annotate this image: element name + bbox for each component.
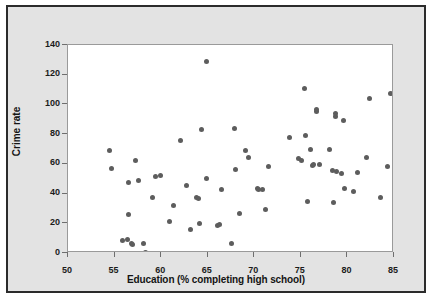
scatter-point — [339, 171, 344, 176]
scatter-point — [232, 126, 237, 131]
scatter-point — [133, 158, 138, 163]
x-tick-mark — [346, 252, 347, 257]
scatter-point — [260, 187, 265, 192]
scatter-point — [141, 241, 146, 246]
scatter-point — [130, 242, 135, 247]
scatter-point — [196, 196, 201, 201]
plot-area — [67, 44, 393, 252]
y-axis-title: Crime rate — [11, 87, 22, 177]
x-tick-mark — [67, 252, 68, 257]
scatter-point — [109, 166, 114, 171]
scatter-point — [385, 164, 390, 169]
scatter-point — [287, 135, 292, 140]
y-tick-label-wrap: 80 — [28, 129, 60, 138]
x-tick-mark — [207, 252, 208, 257]
y-tick-label: 40 — [32, 188, 60, 197]
scatter-point — [143, 250, 148, 251]
y-tick-label-wrap: 20 — [28, 218, 60, 227]
scatter-point — [317, 162, 322, 167]
scatter-point — [233, 167, 238, 172]
figure-container: 020406080100120140 5055606570758085 Crim… — [0, 0, 432, 300]
scatter-point — [199, 127, 204, 132]
y-tick-label: 120 — [32, 69, 60, 78]
scatter-point — [327, 147, 332, 152]
scatter-point — [342, 186, 347, 191]
scatter-point — [107, 148, 112, 153]
scatter-point — [184, 183, 189, 188]
y-tick-label: 140 — [32, 40, 60, 49]
y-tick-label: 0 — [32, 248, 60, 257]
scatter-point — [314, 107, 319, 112]
x-tick-mark — [300, 252, 301, 257]
scatter-point — [303, 133, 308, 138]
scatter-point — [150, 195, 155, 200]
scatter-point — [263, 207, 268, 212]
scatter-point — [311, 162, 316, 167]
scatter-point — [219, 187, 224, 192]
scatter-point — [217, 222, 222, 227]
scatter-point — [378, 195, 383, 200]
y-tick-label-wrap: 60 — [28, 158, 60, 167]
scatter-point — [204, 59, 209, 64]
scatter-point — [333, 111, 338, 116]
scatter-point — [367, 96, 372, 101]
y-tick-label-wrap: 100 — [28, 99, 60, 108]
y-tick-label-wrap: 40 — [28, 188, 60, 197]
y-tick-label: 100 — [32, 99, 60, 108]
y-tick-label-wrap: 140 — [28, 40, 60, 49]
scatter-point — [308, 147, 313, 152]
y-tick-label: 80 — [32, 129, 60, 138]
x-tick-mark — [393, 252, 394, 257]
scatter-point — [246, 155, 251, 160]
scatter-point — [364, 155, 369, 160]
scatter-point — [126, 212, 131, 217]
x-axis-title: Education (% completing high school) — [0, 274, 432, 285]
scatter-point — [204, 176, 209, 181]
scatter-point — [167, 219, 172, 224]
scatter-point — [136, 178, 141, 183]
y-tick-label: 20 — [32, 218, 60, 227]
scatter-point — [351, 189, 356, 194]
scatter-point — [355, 170, 360, 175]
y-tick-label: 60 — [32, 158, 60, 167]
scatter-point — [266, 164, 271, 169]
scatter-point — [158, 173, 163, 178]
scatter-point — [341, 118, 346, 123]
scatter-point — [305, 199, 310, 204]
scatter-points-layer — [68, 45, 392, 251]
scatter-point — [197, 221, 202, 226]
scatter-point — [299, 158, 304, 163]
scatter-point — [229, 241, 234, 246]
scatter-point — [388, 91, 392, 96]
scatter-point — [126, 180, 131, 185]
scatter-point — [331, 200, 336, 205]
y-tick-label-wrap: 120 — [28, 69, 60, 78]
scatter-point — [243, 148, 248, 153]
scatter-point — [178, 138, 183, 143]
scatter-point — [302, 86, 307, 91]
scatter-point — [188, 227, 193, 232]
scatter-point — [171, 203, 176, 208]
x-tick-mark — [114, 252, 115, 257]
x-tick-mark — [160, 252, 161, 257]
scatter-point — [237, 211, 242, 216]
x-tick-mark — [253, 252, 254, 257]
y-tick-label-wrap: 0 — [28, 248, 60, 257]
scatter-point — [334, 169, 339, 174]
